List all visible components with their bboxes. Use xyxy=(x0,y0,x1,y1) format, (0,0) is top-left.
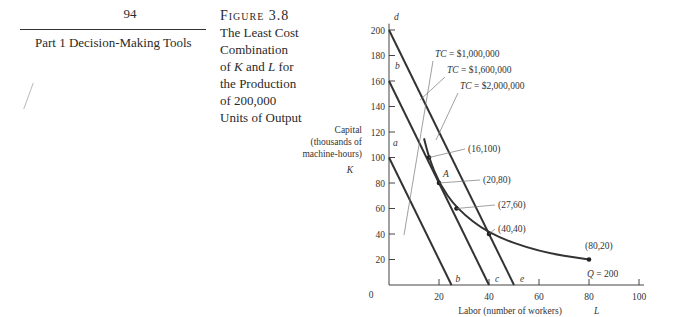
y-tick-label: 20 xyxy=(376,255,386,265)
y-tick-label: 160 xyxy=(371,77,386,87)
y-tick-label: 100 xyxy=(371,153,386,163)
data-point-marker xyxy=(587,257,592,262)
y-tick-label: 180 xyxy=(371,51,386,61)
x-axis-label: Labor (number of workers) xyxy=(458,306,562,317)
point-annotation: (20,80) xyxy=(483,175,511,186)
tc-label: TC = $2,000,000 xyxy=(460,81,525,91)
tc-label: TC = $1,000,000 xyxy=(435,49,500,59)
point-letter-a: a xyxy=(393,138,398,148)
tc-label: TC = $1,600,000 xyxy=(447,65,512,75)
y-axis-label: machine-hours) xyxy=(302,149,362,160)
tc-leader-line xyxy=(420,77,445,100)
y-axis-label: Capital xyxy=(335,125,363,135)
point-letter-d: d xyxy=(394,12,399,22)
tc-leader-line xyxy=(436,93,458,140)
x-axis-label-letter: L xyxy=(593,306,599,316)
y-tick-label: 120 xyxy=(371,128,386,138)
point-annotation: (80,20) xyxy=(585,241,613,252)
point-annotation: (27,60) xyxy=(498,200,526,211)
isoquant-label: Q = 200 xyxy=(587,269,618,279)
tc-leader-line xyxy=(404,61,433,235)
point-letter-A: A xyxy=(442,169,449,179)
point-letter-c: c xyxy=(495,274,500,284)
y-axis-label-letter: K xyxy=(346,165,354,175)
chart: 20406080100120140160180200204060801000La… xyxy=(0,0,680,317)
y-axis-label: (thousands of xyxy=(311,137,363,148)
y-tick-label: 40 xyxy=(376,230,386,240)
origin-label: 0 xyxy=(369,290,374,300)
x-tick-label: 40 xyxy=(484,292,494,302)
x-tick-label: 20 xyxy=(434,292,444,302)
x-tick-label: 80 xyxy=(584,292,594,302)
point-letter-b: b xyxy=(395,61,400,71)
annotation-leader-line xyxy=(439,180,480,183)
point-annotation: (40,40) xyxy=(498,224,526,235)
y-tick-label: 200 xyxy=(371,26,386,36)
point-letter-b: b xyxy=(456,274,461,284)
y-tick-label: 60 xyxy=(376,204,386,214)
y-tick-label: 140 xyxy=(371,102,386,112)
y-tick-label: 80 xyxy=(376,179,386,189)
isoquant-curve xyxy=(424,138,589,259)
point-annotation: (16,100) xyxy=(468,144,500,155)
x-tick-label: 60 xyxy=(534,292,544,302)
point-letter-e: e xyxy=(520,274,524,284)
x-tick-label: 100 xyxy=(632,292,647,302)
